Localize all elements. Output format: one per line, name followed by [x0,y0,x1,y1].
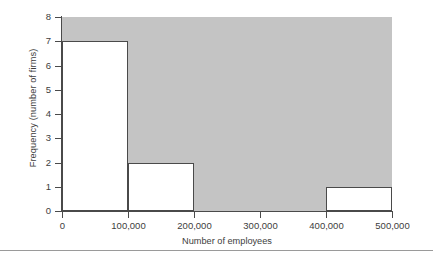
x-axis-tick: 500,000 [392,212,393,218]
y-axis-tick: 4 [55,114,61,115]
x-axis-tick: 200,000 [194,212,195,218]
y-axis-title: Frequency (number of firms) [28,13,38,203]
x-axis-tick-label: 0 [60,220,65,231]
x-axis-tick-label: 100,000 [111,220,145,231]
y-axis-tick: 3 [55,138,61,139]
y-axis-tick: 5 [55,90,61,91]
y-axis-line [61,16,62,212]
x-axis-tick-label: 300,000 [243,220,277,231]
y-axis-tick-label: 0 [46,205,51,216]
y-axis-tick-label: 1 [46,181,51,192]
x-axis-tick-label: 200,000 [177,220,211,231]
y-axis-tick-label: 2 [46,157,51,168]
bottom-divider-rule [0,250,433,251]
y-axis-tick: 7 [55,41,61,42]
plot-area [62,17,392,211]
y-axis-tick-label: 5 [46,84,51,95]
y-axis-tick-label: 3 [46,132,51,143]
x-axis-tick-label: 500,000 [375,220,409,231]
y-axis-tick: 1 [55,187,61,188]
x-axis-line [61,211,393,212]
histogram-figure: Frequency (number of firms) 012345678 01… [0,0,433,259]
y-axis-tick: 0 [55,211,61,212]
histogram-bar [326,187,392,211]
y-axis-tick: 8 [55,17,61,18]
x-axis-tick: 0 [62,212,63,218]
y-axis-tick-label: 8 [46,11,51,22]
y-axis-tick: 2 [55,163,61,164]
y-axis-tick-label: 6 [46,60,51,71]
y-axis-tick-label: 4 [46,108,51,119]
x-axis-tick-label: 400,000 [309,220,343,231]
x-axis-tick: 400,000 [326,212,327,218]
histogram-bar [62,41,128,211]
y-axis-tick: 6 [55,66,61,67]
x-axis-tick: 300,000 [260,212,261,218]
histogram-bar [128,163,194,212]
y-axis-tick-label: 7 [46,35,51,46]
x-axis-tick: 100,000 [128,212,129,218]
x-axis-title: Number of employees [62,236,392,246]
